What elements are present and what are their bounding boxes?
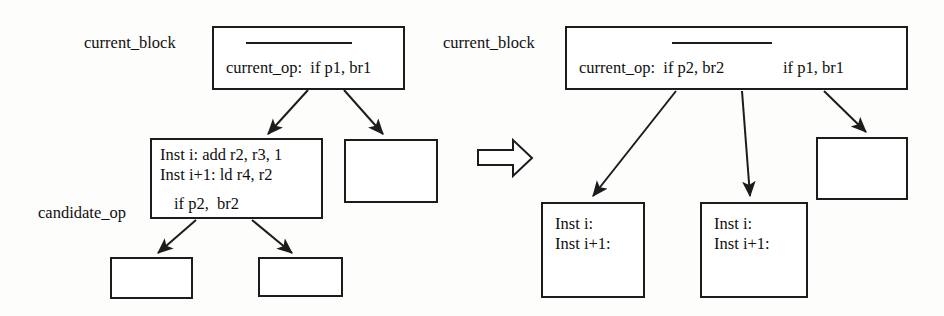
after-inst-left-line1: Inst i: bbox=[555, 214, 593, 233]
before-empty-box-right bbox=[344, 139, 438, 203]
block-right-arrow-icon bbox=[478, 140, 532, 176]
edge-currentblock-to-candidate bbox=[268, 90, 308, 134]
before-candidate-op-label: candidate_op bbox=[38, 203, 126, 222]
before-divider bbox=[246, 42, 352, 44]
after-inst-left-line2: Inst i+1: bbox=[555, 234, 611, 253]
after-inst-right-line2: Inst i+1: bbox=[714, 234, 770, 253]
before-candidate-line2: Inst i+1: ld r4, r2 bbox=[160, 165, 272, 184]
after-current-op-text-2: if p1, br1 bbox=[783, 58, 844, 77]
after-divider bbox=[672, 42, 772, 44]
before-candidate-line3: if p2, br2 bbox=[174, 194, 239, 213]
figure-canvas: current_block current_op: if p1, br1 Ins… bbox=[0, 0, 944, 316]
edge-candidate-to-empty-right bbox=[252, 220, 292, 253]
edge-after-to-empty bbox=[824, 91, 866, 132]
before-empty-box-bottom-right bbox=[258, 257, 343, 297]
before-current-block-box: current_op: if p1, br1 bbox=[212, 26, 405, 90]
after-current-block-box: current_op: if p2, br2 if p1, br1 bbox=[565, 26, 908, 90]
before-current-block-label: current_block bbox=[84, 33, 176, 52]
edge-currentblock-to-empty bbox=[344, 90, 383, 134]
after-inst-box-right: Inst i: Inst i+1: bbox=[700, 202, 808, 298]
after-current-op-text: current_op: if p2, br2 bbox=[579, 58, 724, 77]
after-empty-box-right bbox=[816, 137, 908, 200]
after-inst-right-line1: Inst i: bbox=[714, 214, 752, 233]
edge-after-to-inst-right bbox=[742, 91, 750, 196]
before-empty-box-bottom-left bbox=[110, 257, 193, 299]
before-current-op-text: current_op: if p1, br1 bbox=[226, 58, 371, 77]
before-candidate-line1: Inst i: add r2, r3, 1 bbox=[160, 145, 282, 164]
after-inst-box-left: Inst i: Inst i+1: bbox=[541, 202, 645, 298]
edge-candidate-to-empty-left bbox=[158, 220, 196, 253]
before-candidate-box: Inst i: add r2, r3, 1 Inst i+1: ld r4, r… bbox=[150, 138, 323, 219]
after-current-block-label: current_block bbox=[443, 33, 535, 52]
edge-after-to-inst-left bbox=[593, 91, 676, 196]
